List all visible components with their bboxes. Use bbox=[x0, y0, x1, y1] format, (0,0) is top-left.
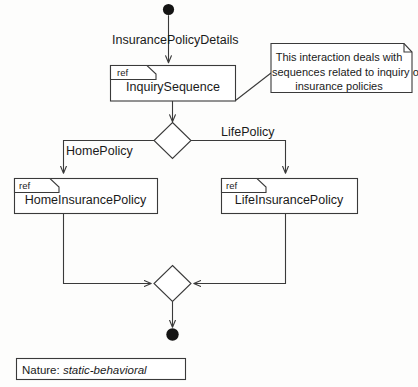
ref-tag-label-inquiry: ref bbox=[117, 67, 128, 78]
note-line-1: This interaction deals with bbox=[272, 50, 406, 65]
nature-annotation: Nature: static-behavioral bbox=[22, 364, 147, 378]
ref-tag-label-life: ref bbox=[226, 180, 237, 191]
interaction-overview-diagram: InsurancePolicyDetails ref InquirySequen… bbox=[0, 0, 418, 387]
flow-life-to-merge bbox=[194, 214, 286, 284]
interaction-use-label-home-insurance-policy: HomeInsurancePolicy bbox=[14, 193, 157, 208]
decision-node bbox=[154, 123, 191, 159]
flow-label-home-policy: HomePolicy bbox=[66, 144, 133, 159]
interaction-use-label-life-insurance-policy: LifeInsurancePolicy bbox=[221, 193, 357, 208]
flow-decision-life-policy bbox=[191, 141, 286, 174]
final-node bbox=[166, 328, 178, 340]
interaction-use-label-inquiry-sequence: InquirySequence bbox=[110, 80, 236, 95]
flow-home-to-merge bbox=[64, 214, 152, 284]
flow-label-life-policy: LifePolicy bbox=[221, 125, 275, 140]
note-line-2: sequences related to inquiry of bbox=[272, 65, 406, 80]
merge-node bbox=[154, 266, 191, 302]
note-anchor-line bbox=[236, 73, 272, 101]
flow-label-insurance-policy-details: InsurancePolicyDetails bbox=[112, 33, 238, 48]
ref-tag-label-home: ref bbox=[19, 180, 30, 191]
note-body: This interaction deals with sequences re… bbox=[272, 50, 406, 94]
nature-value: static-behavioral bbox=[63, 364, 147, 376]
note-line-3: insurance policies bbox=[272, 79, 406, 94]
nature-label: Nature: bbox=[22, 364, 60, 376]
initial-node bbox=[163, 4, 174, 15]
